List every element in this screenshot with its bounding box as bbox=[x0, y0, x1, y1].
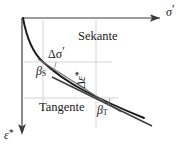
stress-strain-diagram: σ′ ε* Sekante Tangente Δσ′ Δε* βS βT bbox=[0, 0, 186, 155]
delta-eps-base: Δε bbox=[74, 76, 88, 88]
label-beta-secant: βS bbox=[36, 65, 46, 78]
beta-secant-subscript: S bbox=[42, 69, 46, 78]
label-tangente: Tangente bbox=[39, 101, 85, 114]
delta-eps-star: * bbox=[73, 71, 84, 76]
delta-sigma-prime: ′ bbox=[62, 44, 65, 58]
label-delta-sigma: Δσ′ bbox=[48, 45, 65, 60]
y-axis-label: ε* bbox=[4, 128, 14, 141]
label-sekante: Sekante bbox=[78, 30, 118, 43]
label-delta-epsilon: Δε* bbox=[74, 71, 87, 88]
x-axis-label: σ′ bbox=[166, 3, 175, 18]
delta-sigma-base: Δσ bbox=[48, 47, 62, 61]
diagram-canvas bbox=[0, 0, 186, 155]
x-axis-prime: ′ bbox=[172, 2, 175, 16]
beta-tangent-subscript: T bbox=[103, 108, 108, 117]
label-beta-tangent: βT bbox=[97, 104, 108, 117]
y-axis-star: * bbox=[9, 127, 14, 138]
